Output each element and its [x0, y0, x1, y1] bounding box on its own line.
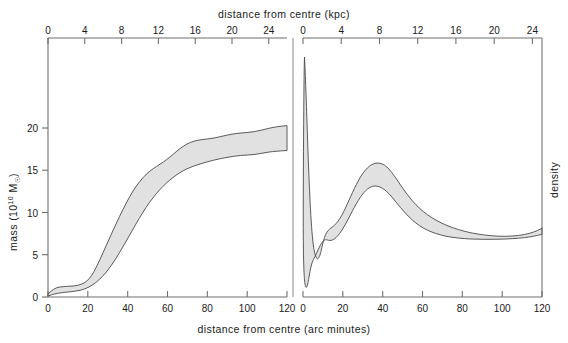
tick-label: 40: [377, 303, 389, 314]
tick-label: 20: [27, 123, 39, 134]
mass-uncertainty-band: [48, 126, 287, 296]
tick-label: 16: [190, 25, 202, 36]
tick-label: 20: [82, 303, 94, 314]
right-panel: 0 4 8 12 16 20 24 0 20 40: [300, 25, 560, 314]
chart-svg: distance from centre (kpc) 0 4: [0, 0, 568, 343]
tick-label: 100: [494, 303, 511, 314]
tick-label: 20: [489, 25, 501, 36]
tick-label: 4: [338, 25, 344, 36]
tick-label: 24: [527, 25, 539, 36]
tick-label: 4: [82, 25, 88, 36]
left-axis-title-main: mass (10: [7, 204, 19, 250]
tick-label: 0: [300, 303, 306, 314]
tick-label: 0: [300, 25, 306, 36]
tick-label: 20: [337, 303, 349, 314]
tick-label: 10: [27, 208, 39, 219]
left-panel-bottom-ticks: [48, 291, 287, 297]
tick-label: 40: [122, 303, 134, 314]
tick-label: 80: [202, 303, 214, 314]
tick-label: 60: [417, 303, 429, 314]
right-panel-top-tick-labels: 0 4 8 12 16 20 24: [300, 25, 538, 36]
top-axis-title: distance from centre (kpc): [218, 8, 350, 20]
left-axis-title-close: ): [7, 173, 19, 177]
left-axis-title: mass (1010 M☉): [7, 173, 21, 251]
left-axis-title-tail: M: [7, 183, 19, 195]
tick-label: 8: [377, 25, 383, 36]
density-uncertainty-band: [303, 57, 542, 287]
tick-label: 120: [279, 303, 296, 314]
right-axis-title: density: [548, 162, 560, 198]
tick-label: 120: [534, 303, 551, 314]
left-axis-title-exp: 10: [7, 196, 14, 205]
tick-label: 0: [32, 292, 38, 303]
tick-label: 0: [45, 25, 51, 36]
left-panel-top-tick-labels: 0 4 8 12 16 20 24: [45, 25, 275, 36]
tick-label: 5: [32, 250, 38, 261]
left-panel: 0 4 8 12 16 20 24 0 20 40: [7, 25, 296, 314]
tick-label: 0: [45, 303, 51, 314]
left-axis-title-group: mass (1010 M☉): [7, 173, 21, 251]
left-panel-y-tick-labels: 0 5 10 15 20: [27, 123, 39, 303]
bottom-axis-title: distance from centre (arc minutes): [198, 323, 371, 335]
tick-label: 60: [162, 303, 174, 314]
figure-container: distance from centre (kpc) 0 4: [0, 0, 568, 343]
left-panel-bottom-tick-labels: 0 20 40 60 80 100 120: [45, 303, 296, 314]
right-panel-top-ticks: [303, 38, 532, 44]
tick-label: 24: [263, 25, 275, 36]
right-panel-bottom-ticks: [303, 291, 542, 297]
tick-label: 12: [412, 25, 424, 36]
tick-label: 8: [119, 25, 125, 36]
right-panel-bottom-tick-labels: 0 20 40 60 80 100 120: [300, 303, 551, 314]
tick-label: 80: [457, 303, 469, 314]
tick-label: 100: [239, 303, 256, 314]
right-axis-title-group: density: [548, 162, 560, 198]
left-panel-y-ticks: [42, 128, 48, 297]
left-panel-top-ticks: [48, 38, 269, 44]
tick-label: 12: [153, 25, 165, 36]
tick-label: 20: [226, 25, 238, 36]
tick-label: 16: [450, 25, 462, 36]
tick-label: 15: [27, 165, 39, 176]
